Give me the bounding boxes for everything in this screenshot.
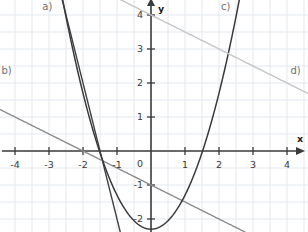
curve-b xyxy=(0,109,250,232)
origin-label: 0 xyxy=(137,158,143,169)
x-tick-label: -4 xyxy=(10,159,19,170)
y-axis-label: y xyxy=(158,3,165,14)
x-tick-label: 4 xyxy=(284,159,290,170)
x-tick-label: 2 xyxy=(216,159,222,170)
coordinate-graph-figure: -4-3-2-11234-2-112340 xy a)b)c)d) xyxy=(0,0,308,232)
axis-names-layer: xy xyxy=(158,3,303,144)
y-tick-label: -1 xyxy=(134,179,143,190)
curve-label-b: b) xyxy=(1,65,11,76)
y-tick-label: 2 xyxy=(137,77,143,88)
y-tick-label: -2 xyxy=(134,213,143,224)
grid-layer xyxy=(0,0,308,232)
x-tick-label: -1 xyxy=(112,159,121,170)
curves-layer xyxy=(0,0,307,232)
y-tick-label: 3 xyxy=(137,43,143,54)
axes-layer xyxy=(2,0,305,232)
y-tick-label: 4 xyxy=(137,9,143,20)
x-tick-label: 3 xyxy=(250,159,256,170)
curve-label-d: d) xyxy=(290,65,300,76)
curve-a xyxy=(62,0,125,232)
x-tick-label: 1 xyxy=(182,159,188,170)
x-axis-label: x xyxy=(297,133,303,144)
x-tick-label: -2 xyxy=(78,159,87,170)
tick-labels-layer: -4-3-2-11234-2-112340 xyxy=(10,9,290,224)
x-tick-label: -3 xyxy=(44,159,53,170)
y-tick-label: 1 xyxy=(137,111,143,122)
curve-label-c: c) xyxy=(221,1,230,12)
graph-canvas: -4-3-2-11234-2-112340 xy a)b)c)d) xyxy=(0,0,308,232)
y-axis-arrowhead xyxy=(147,0,155,6)
curve-label-a: a) xyxy=(42,1,52,12)
